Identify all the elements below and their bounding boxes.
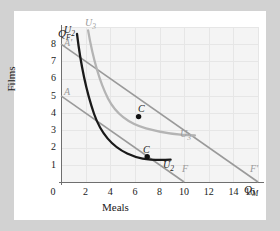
gridline-horizontal xyxy=(61,61,258,62)
y-tick-3: 3 xyxy=(42,124,56,135)
gridline-horizontal xyxy=(61,148,258,149)
gridline-vertical xyxy=(258,27,259,182)
gridline-horizontal xyxy=(61,44,258,45)
x-axis-line xyxy=(59,182,264,183)
gridline-vertical xyxy=(160,27,161,182)
x-tick-4: 4 xyxy=(102,186,118,197)
gridline-vertical xyxy=(184,27,185,182)
x-tick-16: 16 xyxy=(242,186,258,197)
gridline-vertical xyxy=(110,27,111,182)
label-u2-top-sub: 2 xyxy=(71,29,75,38)
label-u3-top: U3 xyxy=(85,17,96,31)
label-u3-right: U3 xyxy=(180,128,191,142)
y-axis-line xyxy=(61,25,62,185)
x-tick-14: 14 xyxy=(225,186,241,197)
gridline-vertical xyxy=(209,27,210,182)
y-tick-6: 6 xyxy=(42,72,56,83)
y-tick-1: 1 xyxy=(42,159,56,170)
plot-area xyxy=(61,27,258,182)
gridline-horizontal xyxy=(61,113,258,114)
label-a-prime: A' xyxy=(64,37,72,48)
y-tick-5: 5 xyxy=(42,90,56,101)
y-tick-7: 7 xyxy=(42,55,56,66)
gridline-horizontal xyxy=(61,130,258,131)
gridline-vertical xyxy=(135,27,136,182)
x-tick-8: 8 xyxy=(152,186,168,197)
label-a: A xyxy=(64,86,70,97)
label-f: F xyxy=(182,163,188,174)
gridline-horizontal xyxy=(61,165,258,166)
label-u3-right-sub: 3 xyxy=(187,133,191,142)
x-tick-12: 12 xyxy=(201,186,217,197)
label-f-prime: F' xyxy=(250,163,258,174)
figure-frame: QF QM 8 7 6 5 4 3 2 1 0 2 4 6 8 10 12 14… xyxy=(0,0,280,231)
x-tick-2: 2 xyxy=(78,186,94,197)
label-u2-right-sub: 2 xyxy=(170,164,174,173)
gridline-vertical xyxy=(233,27,234,182)
gridline-horizontal xyxy=(61,79,258,80)
plot-container: QF QM 8 7 6 5 4 3 2 1 0 2 4 6 8 10 12 14… xyxy=(14,11,266,220)
y-tick-8: 8 xyxy=(42,38,56,49)
y-axis-title: Films xyxy=(5,66,17,91)
x-axis-title: Meals xyxy=(102,201,129,213)
x-tick-6: 6 xyxy=(127,186,143,197)
y-tick-2: 2 xyxy=(42,141,56,152)
label-u3-top-sub: 3 xyxy=(92,22,96,31)
label-point-c-high: C xyxy=(138,103,145,114)
label-point-c-low: C xyxy=(143,144,150,155)
gridline-horizontal xyxy=(61,96,258,97)
label-u2-right: U2 xyxy=(163,159,174,173)
y-tick-4: 4 xyxy=(42,107,56,118)
figure-card: QF QM 8 7 6 5 4 3 2 1 0 2 4 6 8 10 12 14… xyxy=(14,11,266,220)
x-tick-0: 0 xyxy=(45,186,61,197)
label-u2-top: U2 xyxy=(64,24,75,38)
gridline-vertical xyxy=(86,27,87,182)
x-tick-10: 10 xyxy=(176,186,192,197)
